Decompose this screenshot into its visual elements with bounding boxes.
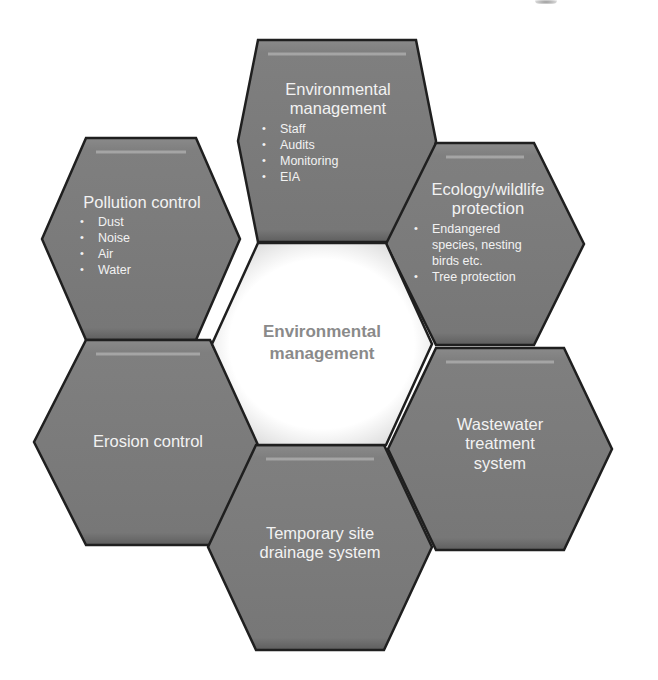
hex-top-right-label: Ecology/wildlife protection Endangered s… — [410, 180, 566, 285]
list-item: Dust — [76, 214, 222, 230]
list-item: Endangered species, nesting birds etc. — [410, 221, 530, 269]
hex-top-right-list: Endangered species, nesting birds etc. T… — [410, 221, 530, 285]
list-item: Water — [76, 262, 222, 278]
hex-top-title-line2: management — [252, 99, 424, 118]
hex-top-title-line1: Environmental — [252, 80, 424, 99]
hex-top-left-list: Dust Noise Air Water — [76, 214, 222, 278]
hex-top-left-title: Pollution control — [62, 193, 222, 212]
list-item: Air — [76, 246, 222, 262]
hex-top-left-label: Pollution control Dust Noise Air Water — [62, 193, 222, 278]
hex-bottom-label: Temporary site drainage system — [236, 524, 404, 563]
hex-top-right-title-line1: Ecology/wildlife — [410, 180, 566, 199]
hex-bottom-right-title-line2: treatment — [420, 434, 580, 453]
center-title-line1: Environmental — [232, 321, 412, 343]
hex-bottom-right-title-line3: system — [420, 454, 580, 473]
hex-bottom-right-title-line1: Wastewater — [420, 415, 580, 434]
hex-top-right-title-line2: protection — [410, 199, 566, 218]
center-title-line2: management — [232, 343, 412, 365]
hex-bottom-title-line1: Temporary site — [236, 524, 404, 543]
list-item: Tree protection — [410, 269, 530, 285]
hex-bottom-left-title: Erosion control — [60, 432, 236, 451]
hex-top-list: Staff Audits Monitoring EIA — [258, 121, 424, 185]
list-item: Staff — [258, 121, 424, 137]
hex-bottom-right-label: Wastewater treatment system — [420, 415, 580, 473]
hex-bottom-title-line2: drainage system — [236, 543, 404, 562]
hex-bottom-left-label: Erosion control — [60, 432, 236, 451]
list-item: Noise — [76, 230, 222, 246]
list-item: EIA — [258, 169, 424, 185]
hex-top-label: Environmental management Staff Audits Mo… — [252, 80, 424, 185]
list-item: Audits — [258, 137, 424, 153]
list-item: Monitoring — [258, 153, 424, 169]
hexagon-diagram: Environmental management Staff Audits Mo… — [0, 0, 658, 680]
center-title: Environmental management — [232, 321, 412, 365]
